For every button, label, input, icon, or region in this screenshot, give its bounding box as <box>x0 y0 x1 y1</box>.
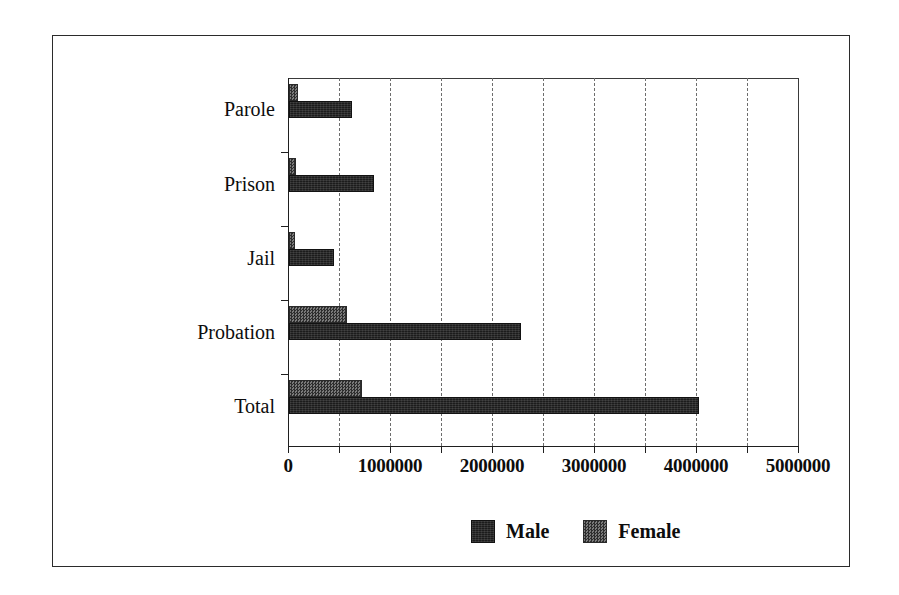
value-axis-label-4000000: 4000000 <box>664 455 728 477</box>
value-axis-tick-500000 <box>339 446 340 453</box>
value-axis-tick-3500000 <box>645 446 646 453</box>
value-axis-tick-3000000 <box>594 446 595 453</box>
bar-total-female <box>289 380 362 397</box>
category-axis-tick-1 <box>281 152 289 153</box>
value-axis-label-3000000: 3000000 <box>562 455 626 477</box>
gridline-1000000 <box>390 78 391 446</box>
category-label-probation: Probation <box>55 321 275 344</box>
category-axis-tick-3 <box>281 300 289 301</box>
bar-jail-female <box>289 232 295 249</box>
gridline-3000000 <box>594 78 595 446</box>
category-label-total: Total <box>55 395 275 418</box>
value-axis-tick-4000000 <box>696 446 697 453</box>
category-label-jail: Jail <box>55 247 275 270</box>
chart-legend: Male Female <box>471 520 681 543</box>
bar-prison-female <box>289 158 296 175</box>
value-axis-label-5000000: 5000000 <box>766 455 830 477</box>
category-axis-tick-4 <box>281 374 289 375</box>
bar-probation-male <box>289 323 521 340</box>
bar-prison-male <box>289 175 374 192</box>
category-axis-tick-2 <box>281 226 289 227</box>
figure-frame: Parole Prison Jail Probation Total <box>52 35 850 567</box>
value-axis-label-0: 0 <box>283 455 292 477</box>
gridline-3500000 <box>645 78 646 446</box>
legend-swatch-female-icon <box>583 520 607 543</box>
gridline-4000000 <box>696 78 697 446</box>
plot-right-border <box>798 78 799 447</box>
value-axis-label-1000000: 1000000 <box>358 455 422 477</box>
gridline-2500000 <box>543 78 544 446</box>
bar-parole-male <box>289 101 352 118</box>
value-axis-tick-4500000 <box>747 446 748 453</box>
plot-area <box>288 78 798 446</box>
value-axis-tick-1500000 <box>441 446 442 453</box>
bar-jail-male <box>289 249 334 266</box>
legend-entry-male: Male <box>471 520 549 543</box>
category-label-prison: Prison <box>55 173 275 196</box>
value-axis-tick-2000000 <box>492 446 493 453</box>
legend-entry-female: Female <box>583 520 680 543</box>
legend-label-male: Male <box>506 520 549 543</box>
value-axis-tick-5000000 <box>798 446 799 453</box>
category-label-parole: Parole <box>55 98 275 121</box>
legend-swatch-male-icon <box>471 520 495 543</box>
value-axis-tick-2500000 <box>543 446 544 453</box>
bar-parole-female <box>289 84 298 101</box>
gridline-1500000 <box>441 78 442 446</box>
bar-total-male <box>289 397 699 414</box>
bar-probation-female <box>289 306 347 323</box>
value-axis-label-2000000: 2000000 <box>460 455 524 477</box>
value-axis-tick-0 <box>288 446 289 453</box>
gridline-4500000 <box>747 78 748 446</box>
value-axis-tick-1000000 <box>390 446 391 453</box>
category-axis-labels: Parole Prison Jail Probation Total <box>53 36 275 595</box>
legend-label-female: Female <box>618 520 680 543</box>
gridline-2000000 <box>492 78 493 446</box>
